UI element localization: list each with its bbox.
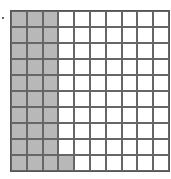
grid-cell [106,107,122,123]
grid-cell [122,107,138,123]
grid-cell [74,139,90,155]
grid-cell [137,59,153,75]
grid-cell-shaded [27,123,43,139]
grid-cell [137,91,153,107]
grid-cell [58,75,74,91]
grid-cell [58,123,74,139]
grid-cell-shaded [27,43,43,59]
grid-cell [58,11,74,27]
grid-cell-shaded [43,91,59,107]
grid-cell-shaded [11,155,27,171]
grid-cell [74,59,90,75]
grid-cell [74,123,90,139]
grid-cell [58,139,74,155]
grid-cell [106,11,122,27]
grid-cell [122,43,138,59]
grid-cell [90,139,106,155]
grid-cell-shaded [43,123,59,139]
grid-cell-shaded [11,43,27,59]
grid-cell [90,123,106,139]
grid-cell [106,91,122,107]
grid-cell [153,91,169,107]
grid-cell [106,43,122,59]
grid-cell [122,75,138,91]
grid-cell [58,91,74,107]
grid-cell-shaded [43,11,59,27]
grid-cell [106,75,122,91]
grid-cell [90,75,106,91]
grid-cell [106,123,122,139]
grid-cell [137,27,153,43]
grid-cell-shaded [58,155,74,171]
grid-cell [90,107,106,123]
grid-cell [137,139,153,155]
grid-cell-shaded [11,11,27,27]
grid-cell [122,123,138,139]
grid-cell [153,59,169,75]
grid-cell [122,11,138,27]
grid-cell-shaded [27,75,43,91]
grid-cell [137,75,153,91]
grid-cell-shaded [43,107,59,123]
grid-cell [74,107,90,123]
grid-cell [153,139,169,155]
grid-cell [122,59,138,75]
grid-cell [122,91,138,107]
grid-cell [137,155,153,171]
hundred-grid [10,10,170,172]
grid-cell [74,43,90,59]
grid-cell [122,155,138,171]
grid-cell [153,107,169,123]
grid-cell [74,155,90,171]
grid-cell [153,155,169,171]
grid-cell-shaded [11,59,27,75]
grid-cell [153,75,169,91]
grid-cell [153,11,169,27]
grid-cell-shaded [27,91,43,107]
grid-cell [58,107,74,123]
grid-cell-shaded [43,75,59,91]
grid-cell-shaded [27,11,43,27]
grid-cell-shaded [11,75,27,91]
grid-cell [90,11,106,27]
grid-cell [90,91,106,107]
grid-cell [74,75,90,91]
grid-cell-shaded [27,27,43,43]
grid-cell [106,27,122,43]
grid-cell-shaded [43,155,59,171]
grid-cell-shaded [43,43,59,59]
grid-cell [106,139,122,155]
grid-cell [153,27,169,43]
grid-cell-shaded [11,107,27,123]
grid-cell-shaded [11,91,27,107]
grid-cell-shaded [11,123,27,139]
grid-cell [58,43,74,59]
grid-cell [74,11,90,27]
grid-cell [58,27,74,43]
grid-cell-shaded [43,139,59,155]
grid-cell-shaded [27,139,43,155]
grid-cell-shaded [27,155,43,171]
grid-cell [90,155,106,171]
grid-cell-shaded [43,59,59,75]
grid-cell [90,59,106,75]
grid-cell-shaded [27,59,43,75]
grid-cell [153,43,169,59]
grid-cell [74,91,90,107]
grid-cell [122,27,138,43]
grid-cell [74,27,90,43]
grid-cell [122,139,138,155]
grid-cell [90,27,106,43]
grid-cell [137,11,153,27]
grid-cell-shaded [11,27,27,43]
grid-cell [106,59,122,75]
grid-cell-shaded [27,107,43,123]
grid-cell-shaded [43,27,59,43]
grid-cell [137,43,153,59]
grid-cell [90,43,106,59]
grid-cell [58,59,74,75]
bullet-marker [2,17,4,19]
grid-cell [137,107,153,123]
grid-cell [153,123,169,139]
grid-cell [106,155,122,171]
